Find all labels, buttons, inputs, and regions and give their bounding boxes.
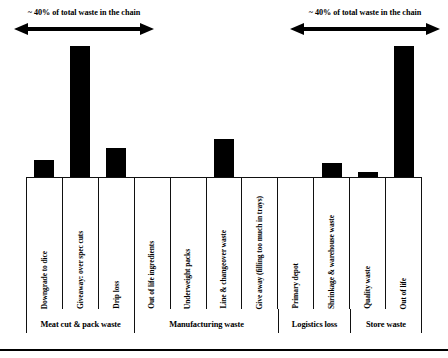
right-annotation-label: ~ 40% of total waste in the chain bbox=[290, 8, 440, 18]
vertical-label-wrap: Out of life ingredients bbox=[135, 178, 170, 309]
bar-cell bbox=[26, 40, 62, 178]
group-label-cell: Meat cut & pack waste bbox=[26, 309, 134, 333]
category-label: Underweight packs bbox=[184, 247, 192, 309]
footer-divider bbox=[0, 349, 448, 351]
category-label-cell: Give away (filling too much in trays) bbox=[242, 178, 278, 309]
bar bbox=[214, 139, 235, 178]
bar-cell bbox=[170, 40, 206, 178]
category-label: Give away (filling too much in trays) bbox=[256, 194, 264, 309]
bar-cell bbox=[314, 40, 350, 178]
vertical-label-wrap: Give away (filling too much in trays) bbox=[242, 178, 277, 309]
category-label-cell: Underweight packs bbox=[171, 178, 207, 309]
vertical-label-wrap: Underweight packs bbox=[171, 178, 206, 309]
group-label: Logistics loss bbox=[292, 320, 337, 329]
group-label-cell: Logistics loss bbox=[278, 309, 350, 333]
group-label-cell: Store waste bbox=[350, 309, 422, 333]
group-label: Meat cut & pack waste bbox=[40, 320, 120, 329]
bar bbox=[394, 46, 415, 178]
category-label: Giveaway: over spec cuts bbox=[77, 229, 85, 309]
bar-cell bbox=[98, 40, 134, 178]
group-label: Manufacturing waste bbox=[169, 320, 244, 329]
bar-cell bbox=[62, 40, 98, 178]
vertical-label-wrap: Quality waste bbox=[350, 178, 385, 309]
bar-cell bbox=[242, 40, 278, 178]
left-annotation: ~ 40% of total waste in the chain bbox=[14, 8, 154, 42]
vertical-label-wrap: Out of life bbox=[386, 178, 421, 309]
category-label: Out of life bbox=[400, 276, 408, 309]
right-annotation: ~ 40% of total waste in the chain bbox=[290, 8, 440, 42]
vertical-label-wrap: Drip loss bbox=[99, 178, 134, 309]
category-label: Primary depot bbox=[292, 261, 300, 309]
bar-cell bbox=[206, 40, 242, 178]
category-label-cell: Out of life bbox=[386, 178, 422, 309]
category-label-cell: Giveaway: over spec cuts bbox=[63, 178, 99, 309]
bar bbox=[70, 46, 91, 178]
category-label-cell: Drip loss bbox=[99, 178, 135, 309]
category-label: Quality waste bbox=[364, 264, 372, 309]
bar-cell bbox=[278, 40, 314, 178]
vertical-label-wrap: Giveaway: over spec cuts bbox=[63, 178, 98, 309]
plot-area bbox=[26, 40, 422, 178]
bar bbox=[34, 160, 55, 178]
category-label-cell: Primary depot bbox=[278, 178, 314, 309]
vertical-label-wrap: Line & changeover waste bbox=[207, 178, 242, 309]
category-label-grid: Downgrade to diceGiveaway: over spec cut… bbox=[26, 177, 422, 309]
left-double-arrow-icon bbox=[14, 22, 154, 36]
bar bbox=[322, 163, 343, 178]
category-label-cell: Quality waste bbox=[350, 178, 386, 309]
category-label: Line & changeover waste bbox=[220, 228, 228, 309]
left-annotation-label: ~ 40% of total waste in the chain bbox=[14, 8, 154, 18]
bar bbox=[106, 148, 127, 178]
bars-container bbox=[26, 40, 422, 178]
category-label: Shrinkage & warehouse waste bbox=[328, 213, 336, 309]
category-label: Drip loss bbox=[113, 279, 121, 309]
vertical-label-wrap: Downgrade to dice bbox=[27, 178, 62, 309]
vertical-label-wrap: Primary depot bbox=[278, 178, 313, 309]
category-label: Downgrade to dice bbox=[41, 249, 49, 309]
bar-cell bbox=[134, 40, 170, 178]
category-label-cell: Shrinkage & warehouse waste bbox=[314, 178, 350, 309]
bar-cell bbox=[350, 40, 386, 178]
group-label-row: Meat cut & pack wasteManufacturing waste… bbox=[26, 309, 422, 333]
vertical-label-wrap: Shrinkage & warehouse waste bbox=[314, 178, 349, 309]
category-label: Out of life ingredients bbox=[148, 239, 156, 309]
category-label-cell: Line & changeover waste bbox=[207, 178, 243, 309]
group-label-cell: Manufacturing waste bbox=[134, 309, 278, 333]
bar-cell bbox=[386, 40, 422, 178]
category-label-cell: Out of life ingredients bbox=[135, 178, 171, 309]
group-label: Store waste bbox=[366, 320, 406, 329]
right-double-arrow-icon bbox=[290, 22, 440, 36]
waste-bar-chart: ~ 40% of total waste in the chain ~ 40% … bbox=[0, 0, 448, 358]
category-label-cell: Downgrade to dice bbox=[27, 178, 63, 309]
